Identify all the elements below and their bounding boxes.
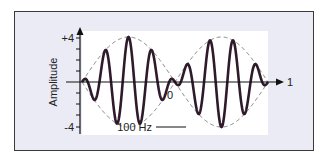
frequency-annotation: 100 Hz [117,121,152,133]
x-tick-end: 1 [287,76,293,88]
y-tick-top: +4 [61,32,74,44]
x-tick-zero: 0 [167,89,173,101]
x-axis-arrow-icon [276,79,284,86]
y-axis-label: Amplitude [47,58,59,107]
y-tick-bottom: -4 [64,121,74,133]
chart-svg: +4 -4 Amplitude 0 1 100 Hz [0,0,323,160]
